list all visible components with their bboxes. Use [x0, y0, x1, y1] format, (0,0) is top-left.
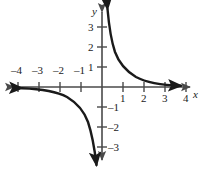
- y-axis-label: y: [92, 6, 97, 17]
- hyperbola-branch-quadrant-1: [108, 9, 182, 86]
- y-tick-label-neg2: –2: [108, 122, 119, 133]
- y-tick-label-neg3: –3: [108, 142, 119, 153]
- hyperbola-branch-quadrant-3: [22, 88, 97, 165]
- y-tick-label-1: 1: [88, 62, 94, 73]
- x-tick-label-neg2: –2: [53, 65, 64, 76]
- x-tick-label-neg1: –1: [74, 65, 85, 76]
- x-tick-label-neg3: –3: [32, 65, 43, 76]
- y-tick-label-3: 3: [88, 22, 94, 33]
- y-tick-label-neg1: –1: [108, 102, 119, 113]
- y-axis: [97, 12, 107, 160]
- x-tick-label-1: 1: [120, 93, 126, 104]
- x-tick-label-4: 4: [183, 93, 189, 104]
- graph-figure: –4 –3 –2 –1 1 2 3 4 3 2 1 –1 –2 –3 y x: [0, 0, 204, 170]
- y-tick-label-2: 2: [88, 42, 94, 53]
- x-tick-label-3: 3: [162, 93, 168, 104]
- x-axis-label: x: [193, 89, 198, 100]
- coordinate-plane-svg: [0, 0, 204, 170]
- x-tick-label-neg4: –4: [11, 65, 22, 76]
- x-tick-label-2: 2: [141, 93, 147, 104]
